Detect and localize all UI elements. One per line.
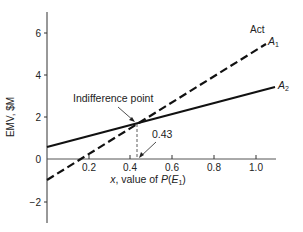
x-tick-06: 0.6	[165, 162, 179, 173]
x-tick-08: 0.8	[207, 162, 221, 173]
value-043-label: 0.43	[152, 128, 173, 140]
y-axis-label: EMV, $M	[5, 97, 16, 137]
x-tick-labels: 0.2 0.4 0.6 0.8 1.0	[82, 162, 263, 173]
value-043-arrowhead	[139, 152, 144, 158]
y-tick-4: 4	[35, 70, 41, 81]
x-axis-label: x, value of P(E1)	[109, 173, 186, 186]
x-tick-10: 1.0	[249, 162, 263, 173]
x-ticks	[89, 155, 256, 159]
y-tick-labels: 6 4 2 0 −2	[30, 28, 42, 208]
x-tick-04: 0.4	[123, 162, 137, 173]
y-tick-2: 2	[35, 112, 41, 123]
y-tick-minus2: −2	[30, 197, 42, 208]
y-tick-0: 0	[35, 154, 41, 165]
x-tick-02: 0.2	[82, 162, 96, 173]
indifference-label: Indifference point	[73, 92, 153, 104]
emv-chart: 6 4 2 0 −2 0.2 0.4 0.6 0.8 1.0 x, value …	[0, 0, 303, 232]
legend-a1: A1	[267, 35, 279, 48]
legend-title-act: Act	[250, 24, 265, 35]
legend-a2: A2	[277, 79, 289, 92]
y-tick-6: 6	[35, 28, 41, 39]
series-a1-line	[47, 44, 266, 180]
